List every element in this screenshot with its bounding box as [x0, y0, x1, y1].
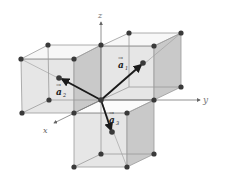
svg-text:→: → — [56, 81, 61, 88]
x-axis-label: x — [43, 126, 48, 135]
z-axis-label: z — [97, 11, 103, 20]
svg-text:a: a — [109, 115, 115, 125]
lattice-diagram: z y x a 1 → a 2 → a 3 → — [0, 0, 226, 180]
svg-text:a: a — [56, 87, 62, 97]
y-axis-label: y — [202, 95, 209, 105]
svg-text:3: 3 — [116, 120, 119, 126]
svg-text:→: → — [118, 54, 123, 61]
svg-text:1: 1 — [125, 65, 128, 71]
svg-text:2: 2 — [62, 92, 66, 98]
svg-text:a: a — [118, 60, 124, 70]
svg-text:→: → — [109, 109, 114, 116]
